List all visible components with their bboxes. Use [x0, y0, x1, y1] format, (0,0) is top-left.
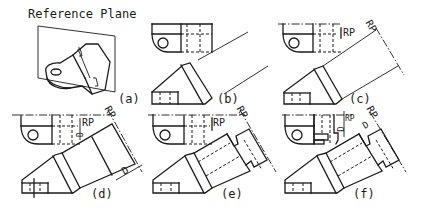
d-label-f-top: D [336, 126, 346, 131]
reference-line-aux [376, 28, 404, 75]
projection-line [224, 66, 268, 94]
panel-c [278, 24, 404, 104]
front-view [152, 63, 212, 104]
auxiliary-view-outline [326, 129, 399, 188]
auxiliary-view-outline [62, 124, 135, 188]
top-view [283, 24, 341, 52]
rp-label-d-top: RP [82, 117, 94, 128]
panel-b [152, 24, 268, 104]
panel-label-e: (e) [221, 187, 243, 201]
panel-e [148, 110, 276, 193]
front-view [284, 66, 342, 104]
projection-line [198, 32, 248, 60]
auxiliary-view-diagram [0, 0, 422, 214]
top-view [21, 115, 80, 144]
panel-d [12, 110, 142, 197]
rp-label-e-top: RP [213, 117, 225, 128]
d-label-d-top: D [76, 132, 85, 137]
panel-label-a: (a) [118, 92, 140, 106]
top-view [153, 115, 212, 144]
panel-label-d: (d) [91, 187, 113, 201]
panel-f [282, 111, 406, 193]
rp-label-c-top: RP [343, 27, 355, 38]
panel-label-c: (c) [349, 92, 371, 106]
panel-a-pictorial [38, 26, 115, 94]
part-hole [51, 69, 61, 75]
top-view [152, 24, 212, 52]
panel-label-b: (b) [217, 92, 239, 106]
front-view [22, 153, 80, 197]
rp-label-f-top: RP [345, 114, 355, 123]
panel-label-f: (f) [353, 187, 375, 201]
reference-plane-title: Reference Plane [28, 7, 136, 21]
